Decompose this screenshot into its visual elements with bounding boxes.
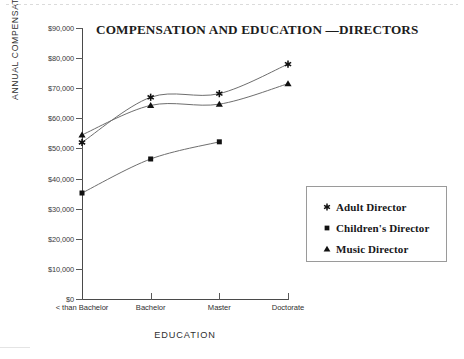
star-marker-icon [148,94,154,101]
star-marker-icon [324,204,330,211]
triangle-marker-icon [284,80,291,86]
legend-item: Adult Director [321,199,407,215]
series-line [82,64,288,142]
star-marker-icon [79,139,85,146]
legend-item: Children's Director [321,220,429,236]
triangle-marker-icon [324,246,331,252]
chart-page: COMPENSATION AND EDUCATION —DIRECTORS $0… [0,0,464,359]
series-plot [0,0,464,359]
series-line [82,84,288,135]
series-line [82,142,219,193]
star-marker-icon [321,201,333,213]
triangle-marker-icon [321,243,333,255]
square-marker-icon [321,222,333,234]
legend-item-label: Children's Director [336,222,429,234]
legend-item-label: Adult Director [336,201,407,213]
triangle-marker-icon [78,131,85,137]
legend-item-label: Music Director [336,243,408,255]
square-marker-icon [325,226,330,231]
square-marker-icon [80,191,85,196]
square-marker-icon [148,156,153,161]
chart-legend: Adult DirectorChildren's DirectorMusic D… [306,186,447,262]
star-marker-icon [285,61,291,68]
square-marker-icon [217,139,222,144]
legend-item: Music Director [321,241,408,257]
